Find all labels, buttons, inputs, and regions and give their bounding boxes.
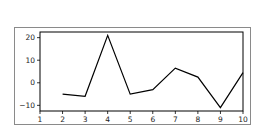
y-tick-label: 0 bbox=[30, 78, 35, 87]
x-tick-label: 10 bbox=[238, 115, 248, 124]
x-tick-label: 8 bbox=[195, 115, 200, 124]
x-tick-label: 4 bbox=[105, 115, 110, 124]
x-tick-label: 3 bbox=[83, 115, 88, 124]
y-tick-label: 10 bbox=[25, 56, 35, 65]
x-tick-label: 9 bbox=[218, 115, 223, 124]
data-line bbox=[63, 35, 243, 107]
y-tick-label: 20 bbox=[25, 33, 35, 42]
x-axis: 12345678910 bbox=[38, 111, 248, 124]
y-axis: 20100−10 bbox=[19, 33, 40, 110]
x-tick-label: 7 bbox=[173, 115, 178, 124]
x-tick-label: 5 bbox=[128, 115, 133, 124]
y-tick-label: −10 bbox=[19, 101, 35, 110]
x-tick-label: 1 bbox=[38, 115, 43, 124]
axes-box bbox=[40, 32, 243, 111]
x-tick-label: 6 bbox=[150, 115, 155, 124]
line-chart: 20100−10 12345678910 bbox=[0, 0, 254, 136]
x-tick-label: 2 bbox=[60, 115, 65, 124]
